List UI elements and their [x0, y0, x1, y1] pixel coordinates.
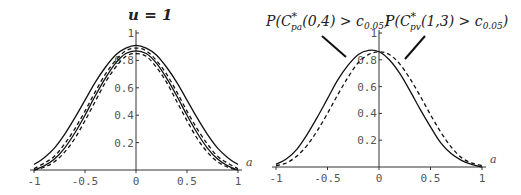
right-x-axis-label: a: [490, 153, 497, 166]
left-chart-title: u = 1: [128, 6, 172, 24]
y-tick-label: 0.8: [357, 54, 377, 67]
left-chart: u = 1 -1-0.500.51 0.20.40.60.81 a: [27, 6, 252, 188]
right-x-ticks: -1-0.500.51: [269, 167, 485, 185]
x-tick-label: 0.5: [177, 175, 197, 188]
annotation-pa-pointer: [322, 36, 346, 57]
x-tick-label: 1: [235, 175, 242, 188]
right-y-ticks: 0.20.40.60.81: [357, 27, 382, 147]
x-tick-label: -1: [27, 175, 40, 188]
x-tick-label: -1: [269, 172, 282, 185]
x-tick-label: 0.5: [421, 172, 441, 185]
right-chart: -1-0.500.51 0.20.40.60.81 a P(C*pa(0,4) …: [265, 10, 508, 185]
annotation-pa-label: P(C*pa(0,4) > c0.05): [265, 10, 389, 32]
x-tick-label: -0.5: [72, 175, 99, 188]
figure: u = 1 -1-0.500.51 0.20.40.60.81 a -1-0.5…: [0, 0, 521, 195]
y-tick-label: 1: [127, 27, 134, 40]
x-tick-label: 0: [133, 175, 140, 188]
annotation-pv-pointer: [405, 36, 425, 59]
x-tick-label: 1: [479, 172, 486, 185]
y-tick-label: 0.6: [357, 81, 377, 94]
y-tick-label: 0.6: [114, 82, 134, 95]
x-tick-label: -0.5: [314, 172, 341, 185]
left-x-ticks: -1-0.500.51: [27, 170, 241, 188]
y-tick-label: 0.2: [114, 137, 134, 150]
y-tick-label: 0.4: [114, 109, 134, 122]
left-x-axis-label: a: [246, 156, 253, 169]
x-tick-label: 0: [376, 172, 383, 185]
y-tick-label: 0.2: [357, 134, 377, 147]
annotation-pv-label: P(C*pv(1,3) > c0.05): [384, 10, 508, 32]
y-tick-label: 0.4: [357, 107, 377, 120]
